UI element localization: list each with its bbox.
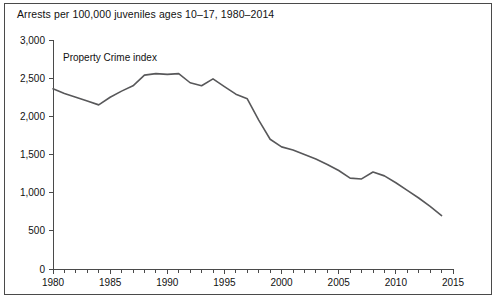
x-tick-label: 2005 xyxy=(328,277,351,288)
x-tick-label: 1995 xyxy=(213,277,236,288)
line-chart-plot: 05001,0001,5002,0002,5003,00019801985199… xyxy=(0,0,496,299)
chart-figure: Arrests per 100,000 juveniles ages 10–17… xyxy=(0,0,496,299)
y-tick-label: 0 xyxy=(39,264,45,275)
x-tick-label: 2000 xyxy=(270,277,293,288)
x-tick-label: 1985 xyxy=(99,277,122,288)
x-tick-label: 1990 xyxy=(156,277,179,288)
y-tick-label: 3,000 xyxy=(20,35,45,46)
y-tick-label: 1,500 xyxy=(20,149,45,160)
y-tick-label: 2,000 xyxy=(20,111,45,122)
data-series-line xyxy=(53,74,442,216)
y-tick-label: 2,500 xyxy=(20,73,45,84)
y-tick-label: 1,000 xyxy=(20,187,45,198)
x-tick-label: 1980 xyxy=(42,277,65,288)
x-tick-label: 2015 xyxy=(442,277,465,288)
y-tick-label: 500 xyxy=(28,225,45,236)
x-tick-label: 2010 xyxy=(385,277,408,288)
